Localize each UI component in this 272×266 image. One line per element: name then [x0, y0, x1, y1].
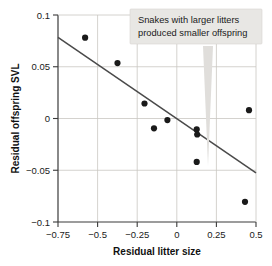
data-point — [114, 60, 120, 66]
y-tick-label--0.1: −0.1 — [31, 217, 50, 228]
scatter-chart-figure: 0.1 0.05 0 −0.05 −0.1 −0.75 −0.5 −0.25 0… — [0, 0, 272, 266]
x-tick-label-0: 0 — [174, 229, 179, 240]
y-tick-label-0: 0 — [45, 113, 50, 124]
y-tick-label-0.1: 0.1 — [37, 10, 50, 21]
x-tick-label--0.5: −0.5 — [88, 229, 107, 240]
x-axis-title: Residual litter size — [113, 246, 201, 257]
x-tick-label--0.25: −0.25 — [125, 229, 149, 240]
x-tick-label-0.5: 0.5 — [249, 229, 262, 240]
x-tick-label--0.75: −0.75 — [46, 229, 70, 240]
y-tick-label--0.05: −0.05 — [26, 165, 50, 176]
data-point — [242, 199, 248, 205]
annotation-line-2: produced smaller offspring — [138, 28, 247, 38]
y-tick-label-0.05: 0.05 — [32, 61, 51, 72]
data-point — [82, 35, 88, 41]
data-point — [246, 107, 252, 113]
data-point — [194, 131, 200, 137]
data-point — [194, 159, 200, 165]
data-point — [164, 117, 170, 123]
chart-canvas: 0.1 0.05 0 −0.05 −0.1 −0.75 −0.5 −0.25 0… — [0, 0, 272, 266]
data-point — [151, 125, 157, 131]
x-tick-label-0.25: 0.25 — [207, 229, 226, 240]
y-axis-title: Residual offspring SVL — [10, 63, 21, 173]
annotation-line-1: Snakes with larger litters — [138, 15, 240, 25]
data-point — [141, 100, 147, 106]
